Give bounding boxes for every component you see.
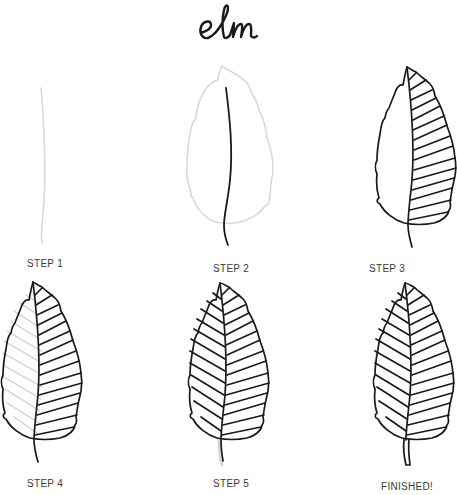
step-5-panel: STEP 5	[175, 275, 300, 495]
title-elm-script: elm	[0, 0, 457, 48]
step-3-label: STEP 3	[369, 263, 405, 274]
step-4-label: STEP 4	[27, 478, 63, 489]
step-3-half-hatched-leaf-drawing	[360, 60, 457, 260]
finished-leaf-drawing	[360, 275, 457, 475]
step-4-panel: STEP 4	[0, 275, 150, 495]
step-2-leaf-outline-drawing	[160, 60, 300, 260]
step-5-label: STEP 5	[213, 478, 249, 489]
step-4-leaf-with-guide-hatching-drawing	[0, 275, 150, 475]
step-1-midrib-guide-drawing	[0, 60, 150, 260]
finished-panel: FINISHED!	[360, 275, 457, 495]
step-1-panel: STEP 1	[0, 60, 150, 275]
step-1-label: STEP 1	[27, 258, 63, 269]
step-2-label: STEP 2	[213, 263, 249, 274]
step-5-fully-hatched-leaf-drawing	[175, 275, 300, 475]
step-2-panel: STEP 2	[160, 60, 300, 275]
step-3-panel: STEP 3	[360, 60, 457, 275]
finished-label: FINISHED!	[381, 481, 433, 492]
